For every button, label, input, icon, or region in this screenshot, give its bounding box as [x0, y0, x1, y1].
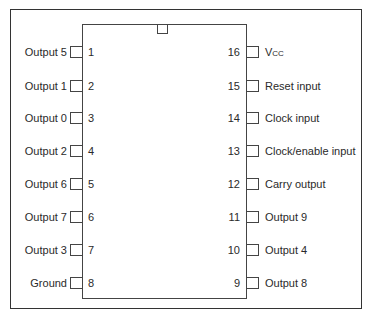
- pin-7-number: 7: [88, 244, 94, 256]
- pin-8-label: Ground: [30, 277, 67, 289]
- pin-5-number: 5: [88, 178, 94, 190]
- pin-10-box: [247, 244, 259, 256]
- pin-4-box: [70, 145, 82, 157]
- pin-11-box: [247, 211, 259, 223]
- pin-8-box: [70, 277, 82, 289]
- pin-12-box: [247, 178, 259, 190]
- pin-15-label: Reset input: [265, 80, 321, 92]
- pin-13-box: [247, 145, 259, 157]
- ic-body: [82, 24, 247, 299]
- pin-1-number: 1: [88, 46, 94, 58]
- pin-4-number: 4: [88, 145, 94, 157]
- pin-13-label: Clock/enable input: [265, 145, 356, 157]
- pin-3-label: Output 0: [25, 112, 67, 124]
- pin-16-number: 16: [228, 46, 240, 58]
- pin-5-label: Output 6: [25, 178, 67, 190]
- pin-16-label: VCC: [265, 46, 284, 60]
- pin-7-label: Output 3: [25, 244, 67, 256]
- pin-4-label: Output 2: [25, 145, 67, 157]
- pin-3-number: 3: [88, 112, 94, 124]
- pin-10-number: 10: [228, 244, 240, 256]
- pin-6-label: Output 7: [25, 211, 67, 223]
- vcc-label-subscript: CC: [272, 49, 284, 58]
- pin-1-box: [70, 46, 82, 58]
- pin-9-number: 9: [234, 277, 240, 289]
- pin-15-number: 15: [228, 80, 240, 92]
- pin-7-box: [70, 244, 82, 256]
- pin-14-box: [247, 112, 259, 124]
- pin-2-number: 2: [88, 80, 94, 92]
- pin-11-label: Output 9: [265, 211, 307, 223]
- pin-10-label: Output 4: [265, 244, 307, 256]
- pin-3-box: [70, 112, 82, 124]
- pin-2-label: Output 1: [25, 80, 67, 92]
- pin-14-label: Clock input: [265, 112, 319, 124]
- pin-12-label: Carry output: [265, 178, 326, 190]
- pin-5-box: [70, 178, 82, 190]
- pin-6-box: [70, 211, 82, 223]
- pin-1-label: Output 5: [25, 46, 67, 58]
- pin-11-number: 11: [229, 211, 240, 223]
- pin-2-box: [70, 80, 82, 92]
- pin-14-number: 14: [228, 112, 240, 124]
- pin-12-number: 12: [228, 178, 240, 190]
- pin-16-box: [247, 46, 259, 58]
- pin-9-label: Output 8: [265, 277, 307, 289]
- pin-6-number: 6: [88, 211, 94, 223]
- pin-13-number: 13: [228, 145, 240, 157]
- pin-15-box: [247, 80, 259, 92]
- pin-8-number: 8: [88, 277, 94, 289]
- pin-9-box: [247, 277, 259, 289]
- ic-orientation-notch: [157, 24, 168, 34]
